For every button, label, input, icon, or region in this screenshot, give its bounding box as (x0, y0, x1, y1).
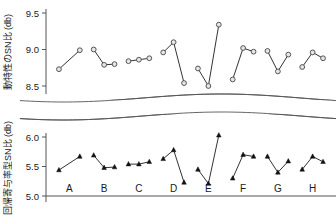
y-tick-label: 9.5 (26, 8, 39, 19)
data-point-D (161, 50, 166, 55)
series-line-A (59, 50, 80, 69)
data-point-A (57, 67, 62, 72)
chart-container: 9.59.08.5 6.05.55.0 ABCDEFGH 動特性のSN比 (db… (0, 0, 336, 222)
data-point-H (300, 65, 305, 70)
series-line-E (198, 135, 219, 183)
data-point-G (265, 49, 270, 54)
data-point-F (241, 46, 246, 51)
data-point-H (310, 50, 315, 55)
series-line-E (198, 25, 219, 86)
series-line-F (233, 155, 254, 179)
data-point-B (91, 47, 96, 52)
data-point-F (230, 176, 235, 180)
data-point-H (310, 154, 315, 158)
y-tick-label: 5.5 (26, 161, 39, 172)
data-point-C (147, 56, 152, 61)
y-tick-label: 6.0 (26, 132, 39, 143)
category-label-H: H (309, 183, 316, 194)
category-label-E: E (205, 183, 212, 194)
data-point-A (77, 48, 82, 53)
data-point-G (286, 159, 291, 163)
category-label-C: C (135, 183, 142, 194)
data-point-B (102, 62, 107, 67)
data-point-D (171, 147, 176, 151)
data-point-E (206, 84, 211, 89)
category-label-G: G (274, 183, 282, 194)
data-point-C (136, 57, 141, 62)
category-axis-labels: ABCDEFGH (66, 183, 316, 194)
data-point-A (78, 154, 83, 158)
series-line-G (267, 51, 288, 71)
data-point-D (171, 40, 176, 45)
lower-y-axis-title: 回帰寄与率型SN比 (db) (2, 121, 13, 215)
data-point-C (126, 59, 131, 64)
category-label-A: A (66, 183, 73, 194)
data-point-E (196, 66, 201, 71)
series-line-D (163, 42, 184, 83)
data-point-G (275, 69, 280, 74)
series-line-D (163, 150, 184, 182)
data-point-H (321, 56, 326, 61)
chart-plot: 9.59.08.5 6.05.55.0 ABCDEFGH 動特性のSN比 (db… (0, 0, 336, 222)
series-line-F (233, 48, 254, 79)
data-point-D (182, 81, 187, 86)
y-tick-label: 5.0 (26, 191, 39, 202)
data-point-E (217, 133, 222, 137)
y-tick-label: 9.0 (26, 44, 39, 55)
y-tick-label: 8.5 (26, 81, 39, 92)
data-point-E (196, 167, 201, 171)
data-point-E (216, 22, 221, 27)
category-label-B: B (101, 183, 108, 194)
upper-y-axis-title: 動特性のSN比 (db) (2, 14, 13, 90)
category-label-D: D (170, 183, 177, 194)
data-point-B (112, 62, 117, 67)
data-point-B (112, 164, 117, 168)
data-point-G (265, 154, 270, 158)
data-point-F (241, 152, 246, 156)
series-line-A (59, 156, 80, 170)
axis-break (0, 94, 336, 120)
category-label-F: F (240, 183, 246, 194)
axis-titles: 動特性のSN比 (db)回帰寄与率型SN比 (db) (2, 14, 13, 215)
data-point-D (182, 180, 187, 184)
data-point-F (251, 49, 256, 54)
data-point-A (57, 167, 62, 171)
data-point-C (147, 159, 152, 163)
data-point-B (91, 153, 96, 157)
data-point-F (230, 77, 235, 82)
data-point-G (286, 52, 291, 57)
upper-panel: 9.59.08.5 (26, 8, 326, 95)
